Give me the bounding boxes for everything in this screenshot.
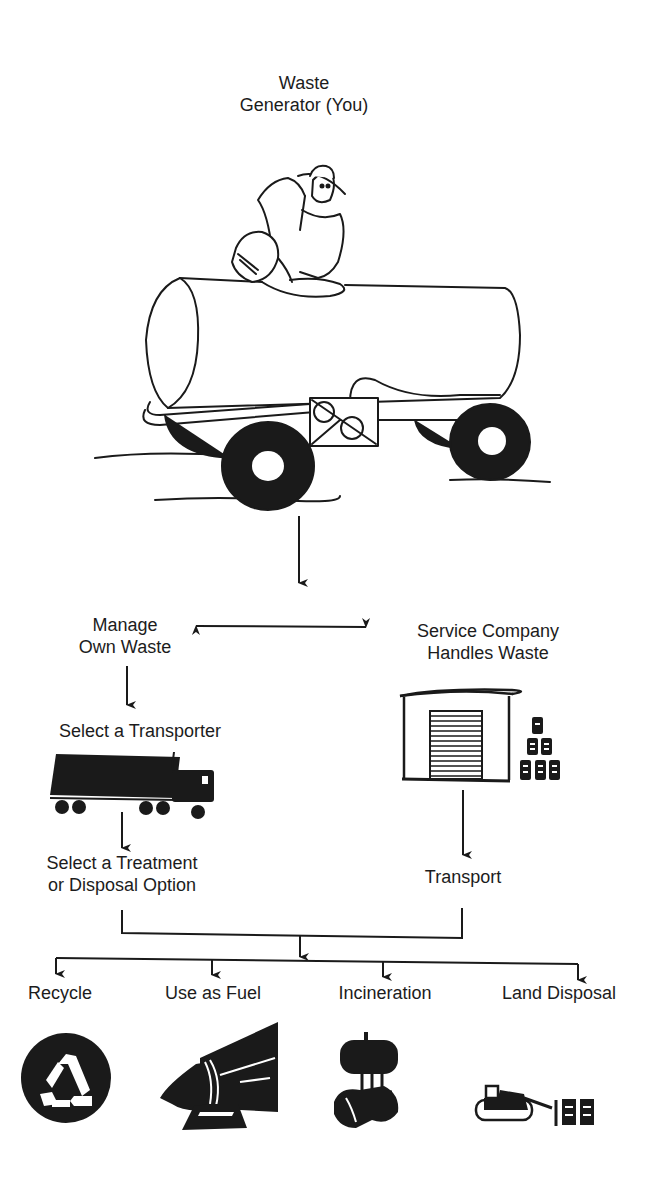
incinerator-icon — [334, 1032, 398, 1128]
stacked-drums-icon — [520, 717, 560, 780]
join-bracket — [122, 908, 462, 938]
recycle-icon — [21, 1033, 111, 1123]
semi-truck-icon — [50, 752, 214, 819]
kiln-icon — [160, 1022, 278, 1130]
bulldozer-icon — [476, 1086, 594, 1126]
diagram-graphics — [0, 0, 668, 1194]
warehouse-icon — [400, 690, 521, 781]
distribution-bar — [56, 958, 578, 964]
farmer-tank-illustration — [95, 166, 550, 510]
arrow-branch-choice — [196, 626, 366, 627]
